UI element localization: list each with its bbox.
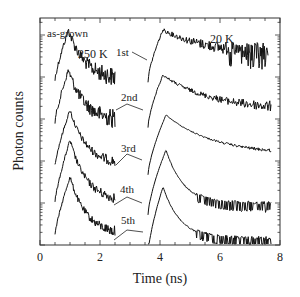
curve-label-4th: 4th	[120, 183, 135, 195]
x-tick-label-6: 6	[217, 250, 223, 264]
photon-count-decay-chart: as-grown 250 K 20 K 1st 2nd 3rd 4th 5th …	[0, 0, 300, 297]
leader-line-3rd	[116, 154, 142, 165]
curve-250k-4th	[55, 141, 115, 202]
curve-label-5th: 5th	[121, 214, 136, 226]
decay-curves	[55, 29, 271, 244]
leader-line-5th	[114, 230, 143, 240]
curve-label-2nd: 2nd	[121, 91, 138, 103]
curve-20k-1st	[148, 29, 268, 83]
sample-annotation: as-grown	[47, 27, 88, 39]
curve-20k-5th	[148, 188, 271, 244]
y-axis-label: Photon counts	[11, 91, 26, 171]
x-tick-label-8: 8	[277, 250, 283, 264]
x-tick-label-4: 4	[157, 250, 163, 264]
x-tick-label-0: 0	[37, 250, 43, 264]
curve-label-3rd: 3rd	[121, 142, 136, 154]
temperature-label-250k: 250 K	[78, 47, 108, 61]
leader-line-4th	[114, 197, 142, 205]
x-tick-label-2: 2	[97, 250, 103, 264]
curve-20k-3rd	[148, 115, 271, 175]
temperature-label-20k: 20 K	[210, 32, 234, 46]
x-axis-label: Time (ns)	[133, 271, 188, 287]
curve-label-1st: 1st	[116, 46, 129, 58]
curve-20k-4th	[148, 151, 271, 215]
leader-line-2nd	[116, 104, 143, 110]
leader-line-1st	[132, 52, 147, 60]
curve-250k-3rd	[55, 112, 115, 166]
curve-20k-2nd	[148, 75, 271, 128]
curve-250k-5th	[55, 177, 115, 235]
